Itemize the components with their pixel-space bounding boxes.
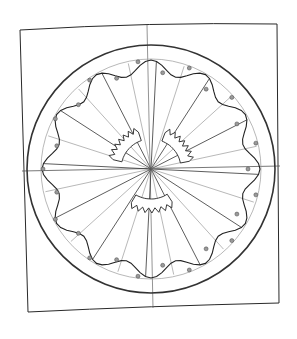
spokes: [43, 61, 259, 277]
sketch-canvas: [0, 0, 297, 339]
